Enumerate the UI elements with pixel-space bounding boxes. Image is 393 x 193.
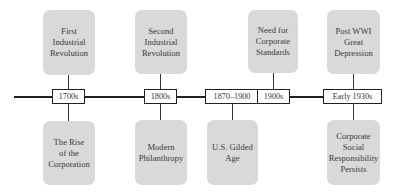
event-first-industrial-revolution: First Industrial Revolution	[43, 10, 95, 75]
event-line: Responsibility	[329, 153, 379, 164]
event-label: The Rise of the Corporation	[48, 137, 90, 170]
event-csr-persists: Corporate Social Responsibility Persists	[327, 120, 380, 185]
event-line: Corporate	[329, 131, 379, 142]
event-line: Industrial	[142, 37, 180, 48]
event-post-wwi-great-depression: Post WWI Great Depression	[327, 10, 380, 74]
event-line: Post WWI	[334, 26, 373, 37]
connector-top-3	[273, 73, 274, 89]
event-line: Persists	[329, 164, 379, 175]
connector-bottom-2	[160, 104, 161, 120]
connector-bottom-4	[353, 104, 354, 120]
date-label: Early 1930s	[333, 92, 372, 101]
event-line: Modern	[139, 142, 183, 153]
date-early-1930s: Early 1930s	[323, 89, 382, 104]
date-label: 1870–1900	[214, 92, 251, 101]
event-line: Revolution	[142, 48, 180, 59]
event-need-for-corporate-standards: Need for Corporate Standards	[248, 10, 298, 73]
event-line: U.S. Gilded	[212, 142, 253, 153]
event-line: Standards	[256, 47, 290, 58]
event-label: Corporate Social Responsibility Persists	[329, 131, 379, 175]
event-line: Social	[329, 142, 379, 153]
event-label: U.S. Gilded Age	[212, 142, 253, 164]
event-modern-philanthropy: Modern Philanthropy	[135, 120, 187, 185]
date-label: 1800s	[151, 92, 171, 101]
event-line: Need for	[256, 25, 290, 36]
event-line: Revolution	[50, 48, 88, 59]
event-label: Need for Corporate Standards	[256, 25, 290, 58]
date-label: 1900s	[264, 92, 284, 101]
event-line: Great	[334, 37, 373, 48]
event-line: Depression	[334, 48, 373, 59]
date-1900s: 1900s	[257, 89, 290, 104]
event-label: Second Industrial Revolution	[142, 26, 180, 59]
date-label: 1700s	[59, 92, 79, 101]
event-line: Philanthropy	[139, 153, 183, 164]
event-line: Corporate	[256, 36, 290, 47]
event-line: of the	[48, 148, 90, 159]
event-label: Post WWI Great Depression	[334, 26, 373, 59]
date-1700s: 1700s	[52, 89, 85, 104]
event-line: Second	[142, 26, 180, 37]
event-line: First	[50, 26, 88, 37]
event-label: Modern Philanthropy	[139, 142, 183, 164]
date-1800s: 1800s	[144, 89, 177, 104]
event-line: Age	[212, 153, 253, 164]
connector-top-1	[68, 75, 69, 89]
event-label: First Industrial Revolution	[50, 26, 88, 59]
event-rise-of-the-corporation: The Rise of the Corporation	[43, 121, 95, 185]
event-line: The Rise	[48, 137, 90, 148]
connector-top-2	[160, 74, 161, 89]
event-line: Industrial	[50, 37, 88, 48]
event-us-gilded-age: U.S. Gilded Age	[207, 120, 258, 185]
event-line: Corporation	[48, 159, 90, 170]
connector-top-4	[353, 74, 354, 89]
date-1870-1900: 1870–1900	[205, 89, 259, 104]
connector-bottom-3	[232, 104, 233, 120]
connector-bottom-1	[68, 104, 69, 121]
event-second-industrial-revolution: Second Industrial Revolution	[135, 10, 187, 74]
